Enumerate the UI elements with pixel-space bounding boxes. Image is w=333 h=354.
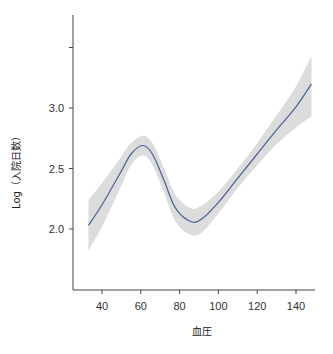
y-tick-label: 3.0 (49, 102, 64, 114)
x-tick-label: 60 (135, 300, 147, 312)
confidence-band (88, 56, 311, 251)
fit-line (88, 84, 311, 226)
x-axis-title: 血圧 (192, 325, 212, 337)
x-tick-label: 100 (209, 300, 227, 312)
x-tick-label: 140 (287, 300, 305, 312)
x-tick-label: 120 (248, 300, 266, 312)
y-tick-label: 2.0 (49, 223, 64, 235)
y-tick-label: 2.5 (49, 163, 64, 175)
x-tick-label: 80 (173, 300, 185, 312)
y-axis-title: Log（入院日数） (10, 131, 22, 209)
chart: 2.02.53.0 406080100120140 血圧 Log（入院日数） (0, 0, 333, 354)
x-axis: 406080100120140 (73, 290, 315, 312)
y-axis: 2.02.53.0 (49, 15, 73, 290)
plot-area (88, 56, 311, 251)
x-tick-label: 40 (96, 300, 108, 312)
